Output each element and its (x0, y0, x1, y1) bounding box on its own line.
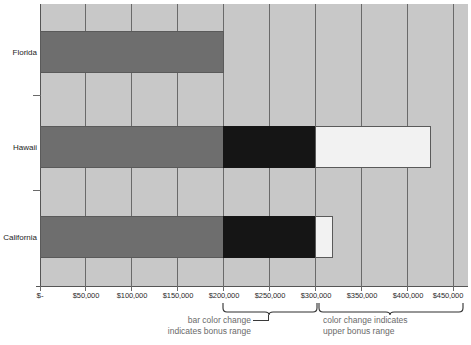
x-axis-label-150000: $150,000 (163, 291, 193, 300)
x-axis-label-0: $- (37, 291, 44, 300)
x-axis-label-450000: $450,000 (433, 291, 463, 300)
bar-row-hawaii (40, 126, 468, 168)
bar-segment-bonus[interactable] (223, 126, 316, 168)
bar-segment-base[interactable] (40, 126, 224, 168)
x-axis-label-350000: $350,000 (347, 291, 377, 300)
bar-row-california (40, 216, 468, 258)
category-label-florida: Florida (0, 48, 37, 57)
bar-segment-base[interactable] (40, 31, 224, 73)
annotation-bonus-range: bar color change indicates bonus range (103, 315, 251, 337)
bar-segment-upper-bonus[interactable] (315, 216, 333, 258)
annotation-bonus-range-line2: indicates bonus range (103, 326, 251, 337)
x-axis-label-200000: $200,000 (209, 291, 239, 300)
brace-upper-bonus-range (318, 303, 464, 315)
bar-row-florida (40, 31, 468, 73)
bar-segment-bonus[interactable] (223, 216, 316, 258)
y-tick-2 (33, 190, 41, 191)
annotation-upper-bonus-range: color change indicates upper bonus range (323, 315, 471, 337)
bar-segment-base[interactable] (40, 216, 224, 258)
annotation-upper-bonus-range-line2: upper bonus range (323, 326, 471, 337)
x-axis-label-50000: $50,000 (73, 291, 99, 300)
x-axis-label-300000: $300,000 (301, 291, 331, 300)
category-label-california: California (0, 233, 37, 242)
x-axis-label-100000: $100,000 (117, 291, 147, 300)
bar-segment-upper-bonus[interactable] (315, 126, 431, 168)
annotation-bonus-range-line1: bar color change (103, 315, 251, 326)
bar-chart: Florida Hawaii California $- $50,000 $10… (0, 0, 471, 345)
brace-bonus-range (222, 303, 318, 315)
category-label-hawaii: Hawaii (0, 143, 37, 152)
x-axis-label-400000: $400,000 (393, 291, 423, 300)
x-axis-line (36, 286, 468, 287)
annotation-leader-line (253, 320, 269, 321)
annotation-leader-elbow (268, 315, 269, 321)
y-tick-1 (33, 95, 41, 96)
x-axis-label-250000: $250,000 (255, 291, 285, 300)
annotation-upper-bonus-range-line1: color change indicates (323, 315, 471, 326)
